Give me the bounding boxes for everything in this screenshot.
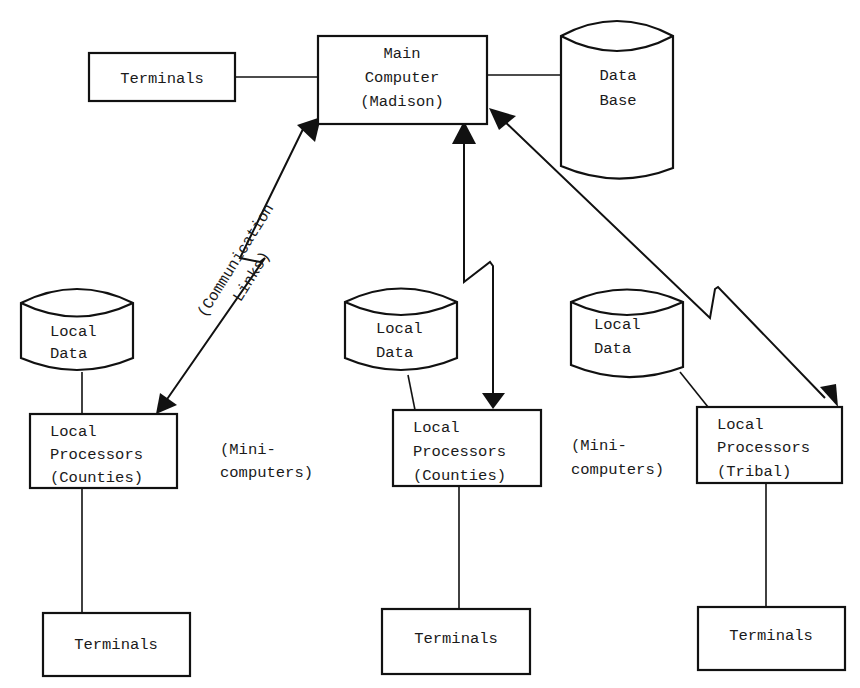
left-local-data-cylinder: Local Data <box>21 289 133 370</box>
main-computer-label-line2: Computer <box>365 69 439 87</box>
left-local-data-label-line2: Data <box>50 345 87 363</box>
link-main-to-mid-processors <box>452 121 505 409</box>
right-local-processors-box: Local Processors (Tribal) <box>697 407 842 483</box>
mid-processors-label-line3: (Counties) <box>413 467 506 485</box>
main-computer-label-line1: Main <box>383 45 420 63</box>
mid-processors-label-line1: Local <box>413 419 460 437</box>
edge-mid-data-processor <box>408 375 415 410</box>
right-local-data-label-line1: Local <box>594 316 641 334</box>
left-processors-label-line3: (Counties) <box>50 469 143 487</box>
mid-local-data-label-line2: Data <box>376 344 413 362</box>
arrowhead-down-icon <box>482 393 505 409</box>
left-local-processors-box: Local Processors (Counties) <box>30 414 177 488</box>
mid-terminals-box: Terminals <box>382 609 530 674</box>
right-local-data-cylinder: Local Data <box>571 290 683 378</box>
minicomputers-left-annotation: (Mini- computers) <box>220 441 313 482</box>
right-processors-label-line2: Processors <box>717 439 810 457</box>
main-computer-label-line3: (Madison) <box>360 93 444 111</box>
mid-local-data-cylinder: Local Data <box>345 289 457 371</box>
edge-right-data-processor <box>680 372 708 407</box>
top-terminals-label: Terminals <box>120 70 204 88</box>
communication-links-annotation: (Communication Links) <box>194 201 297 333</box>
right-terminals-box: Terminals <box>698 607 845 670</box>
left-terminals-label: Terminals <box>74 636 158 654</box>
left-processors-label-line1: Local <box>50 423 97 441</box>
data-base-label-line1: Data <box>599 67 636 85</box>
data-base-label-line2: Base <box>599 92 636 110</box>
right-local-data-label-line2: Data <box>594 340 631 358</box>
left-terminals-box: Terminals <box>43 613 190 676</box>
minicomputers-right-line1: (Mini- <box>571 437 627 455</box>
minicomputers-left-line1: (Mini- <box>220 441 276 459</box>
right-terminals-label: Terminals <box>729 627 813 645</box>
arrowhead-up-icon <box>489 108 516 130</box>
arrowhead-down-icon <box>156 393 177 414</box>
left-local-data-label-line1: Local <box>50 323 97 341</box>
mid-local-processors-box: Local Processors (Counties) <box>393 410 541 486</box>
mid-local-data-label-line1: Local <box>376 320 423 338</box>
main-computer-box: Main Computer (Madison) <box>318 36 487 124</box>
minicomputers-right-annotation: (Mini- computers) <box>571 437 664 479</box>
left-processors-label-line2: Processors <box>50 446 143 464</box>
network-diagram: Terminals Main Computer (Madison) Data B… <box>0 0 860 688</box>
right-processors-label-line1: Local <box>717 416 764 434</box>
top-terminals-box: Terminals <box>89 53 235 101</box>
mid-terminals-label: Terminals <box>414 630 498 648</box>
minicomputers-right-line2: computers) <box>571 461 664 479</box>
mid-processors-label-line2: Processors <box>413 443 506 461</box>
minicomputers-left-line2: computers) <box>220 464 313 482</box>
data-base-cylinder: Data Base <box>561 21 673 179</box>
right-processors-label-line3: (Tribal) <box>717 463 791 481</box>
